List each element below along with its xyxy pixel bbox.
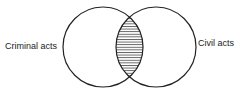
civil-acts-label: Civil acts [198,38,234,48]
criminal-acts-label: Criminal acts [5,41,57,51]
